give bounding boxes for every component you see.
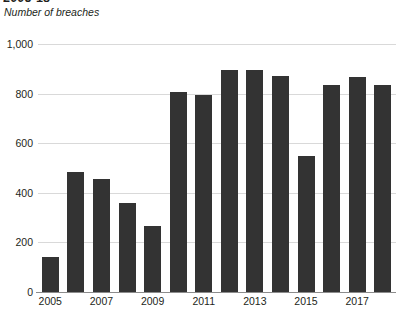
y-axis-tick-label: 400 — [1, 187, 33, 199]
plot-area — [38, 44, 396, 292]
x-axis-tick-label: 2007 — [90, 295, 113, 307]
bar — [374, 85, 391, 292]
bar — [144, 226, 161, 292]
y-axis-tick-label: 800 — [1, 88, 33, 100]
x-axis-tick-labels: 2005200720092011201320152017 — [38, 295, 396, 311]
bar — [42, 257, 59, 292]
bar-series — [38, 44, 396, 292]
bar — [195, 95, 212, 292]
chart-title: 2005-18 — [3, 0, 50, 4]
bar — [93, 179, 110, 292]
bar — [349, 77, 366, 292]
x-axis-tick-label: 2017 — [345, 295, 368, 307]
bar — [272, 76, 289, 292]
y-axis-tick-label: 1,000 — [1, 38, 33, 50]
x-axis-tick-label: 2011 — [192, 295, 215, 307]
bar-chart-figure: 2005-18 Number of breaches 0200400600800… — [0, 0, 408, 313]
y-axis-tick-label: 0 — [1, 286, 33, 298]
bar — [170, 92, 187, 292]
x-axis-tick-label: 2005 — [39, 295, 62, 307]
x-axis-line — [36, 292, 396, 294]
bar — [298, 156, 315, 292]
x-axis-tick-label: 2009 — [141, 295, 164, 307]
y-axis-tick-labels: 02004006008001,000 — [0, 44, 33, 292]
chart-subtitle: Number of breaches — [4, 6, 99, 18]
bar — [67, 172, 84, 292]
bar — [323, 85, 340, 292]
x-axis-tick-label: 2015 — [294, 295, 317, 307]
bar — [119, 203, 136, 292]
y-axis-tick-label: 200 — [1, 236, 33, 248]
bar — [221, 70, 238, 292]
bar — [246, 70, 263, 292]
x-axis-tick-label: 2013 — [243, 295, 266, 307]
y-axis-tick-label: 600 — [1, 137, 33, 149]
